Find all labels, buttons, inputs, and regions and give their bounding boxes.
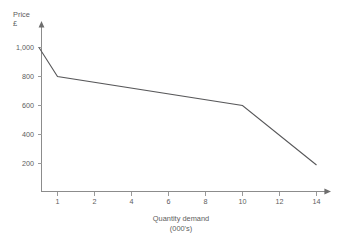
x-axis-tick-labels: 1 2 4 6 8 10 12 14	[56, 197, 321, 206]
y-axis-title-line1: Price	[13, 10, 30, 19]
demand-curve-chart: 200 400 600 800 1,000 Price £	[0, 0, 347, 242]
demand-curve-line	[39, 48, 317, 165]
y-tick-label: 600	[22, 101, 34, 110]
y-tick-label: 800	[22, 72, 34, 81]
y-tick-label: 1,000	[16, 43, 34, 52]
x-axis-group: 1 2 4 6 8 10 12 14 Quantity demand (000'…	[42, 189, 332, 233]
x-axis-title: Quantity demand (000's)	[153, 214, 209, 233]
x-tick-label: 12	[276, 197, 284, 206]
x-tick-label: 6	[167, 197, 171, 206]
x-tick-label: 8	[204, 197, 208, 206]
x-axis-title-line2: (000's)	[170, 224, 192, 233]
x-tick-label: 14	[313, 197, 321, 206]
y-axis-title: Price £	[13, 10, 30, 28]
y-axis-arrow-icon	[39, 21, 45, 28]
x-axis-arrow-icon	[324, 189, 331, 195]
x-axis-ticks	[58, 192, 317, 196]
data-series-group	[39, 48, 317, 165]
y-axis-tick-labels: 200 400 600 800 1,000	[16, 43, 34, 168]
x-tick-label: 4	[130, 197, 134, 206]
x-tick-label: 10	[239, 197, 247, 206]
x-tick-label: 1	[56, 197, 60, 206]
y-tick-label: 200	[22, 159, 34, 168]
y-axis-ticks	[38, 48, 42, 164]
y-tick-label: 400	[22, 130, 34, 139]
x-axis-title-line1: Quantity demand	[153, 214, 209, 223]
y-axis-group: 200 400 600 800 1,000 Price £	[13, 10, 44, 192]
chart-container: 200 400 600 800 1,000 Price £	[0, 0, 347, 242]
y-axis-title-line2: £	[13, 19, 17, 28]
x-tick-label: 2	[93, 197, 97, 206]
